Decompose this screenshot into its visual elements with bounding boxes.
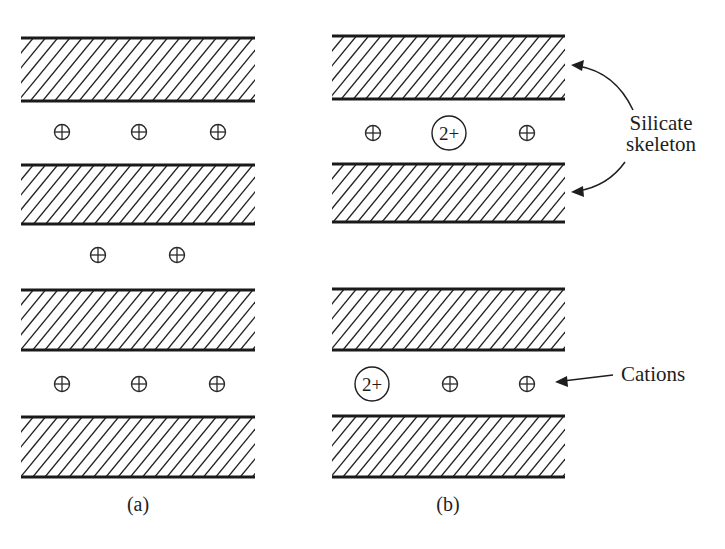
cation-icon [443, 377, 458, 392]
hatch-line [21, 290, 70, 350]
hatch-line [502, 289, 552, 350]
hatch-line [465, 289, 515, 350]
hatch-line [0, 38, 33, 101]
cation-icon [170, 248, 185, 263]
hatch-line [575, 416, 625, 477]
hatch-line [563, 416, 613, 477]
hatch-pattern [284, 164, 649, 222]
arrow-to-lower-layer [578, 162, 625, 191]
hatch-line [191, 290, 240, 350]
cation-icon [366, 126, 381, 141]
hatch-line [289, 417, 338, 477]
hatch-line [131, 165, 179, 224]
hatch-pattern [0, 290, 350, 350]
hatch-line [217, 165, 265, 224]
silicate-layer [0, 290, 350, 350]
hatch-line [550, 289, 600, 350]
panel-b: 2+2+ [280, 36, 661, 477]
hatch-line [265, 290, 314, 350]
hatch-line [563, 289, 613, 350]
hatch-line [550, 416, 600, 477]
silicate-layer [280, 36, 661, 99]
hatch-line [118, 290, 167, 350]
hatch-line [179, 290, 228, 350]
silicate-layer [0, 417, 350, 477]
hatch-line [8, 417, 57, 477]
hatch-line [106, 290, 155, 350]
hatch-line [143, 290, 192, 350]
hatch-line [192, 165, 240, 224]
hatch-line [394, 164, 442, 222]
cation-icon [132, 125, 147, 140]
hatch-line [204, 165, 252, 224]
hatch-line [282, 289, 332, 350]
hatch-line [58, 165, 106, 224]
hatch-line [404, 416, 454, 477]
hatch-line [143, 165, 191, 224]
hatch-line [262, 38, 314, 101]
hatch-line [0, 38, 21, 101]
hatch-line [319, 416, 369, 477]
hatch-line [282, 416, 332, 477]
hatch-line [106, 417, 155, 477]
cations-annotation: Cations [555, 362, 685, 387]
hatch-line [70, 165, 118, 224]
hatch-line [240, 417, 289, 477]
silicate-layer [282, 289, 661, 350]
hatch-line [289, 290, 338, 350]
hatch-line [216, 417, 265, 477]
hatch-line [380, 416, 430, 477]
hatch-line [284, 164, 332, 222]
arrow-head-icon [555, 376, 568, 387]
hatch-line [130, 417, 179, 477]
hatch-line [453, 416, 503, 477]
hatch-line [82, 290, 131, 350]
hatch-line [480, 164, 528, 222]
hatch-pattern [280, 36, 661, 99]
arrow-head-icon [571, 60, 584, 71]
panel-a [0, 38, 350, 477]
hatch-line [428, 416, 478, 477]
hatch-line [587, 289, 637, 350]
arrow-to-cation [563, 375, 613, 381]
hatch-line [306, 416, 356, 477]
hatch-line [575, 289, 625, 350]
hatch-line [156, 165, 204, 224]
hatch-line [299, 38, 351, 101]
hatch-line [204, 417, 253, 477]
hatch-line [168, 165, 216, 224]
arrow-to-upper-layer [578, 66, 633, 110]
hatch-line [0, 290, 21, 350]
hatch-line [441, 416, 491, 477]
hatch-line [45, 417, 94, 477]
hatch-line [309, 164, 357, 222]
hatch-line [130, 290, 179, 350]
hatch-line [514, 416, 564, 477]
hatch-line [598, 36, 650, 99]
hatch-line [367, 289, 417, 350]
cation-icon [91, 248, 106, 263]
hatch-line [587, 416, 637, 477]
cation-icon [55, 377, 70, 392]
hatch-line [538, 416, 588, 477]
hatch-line [253, 165, 301, 224]
silicate-layer [282, 416, 661, 477]
hatch-line [278, 165, 326, 224]
divalent-cation: 2+ [355, 367, 389, 401]
hatch-line [240, 290, 289, 350]
hatch-line [167, 290, 216, 350]
hatch-line [419, 164, 467, 222]
hatch-line [565, 164, 613, 222]
hatch-line [229, 165, 277, 224]
hatch-line [504, 164, 552, 222]
hatch-line [599, 416, 649, 477]
hatch-line [252, 417, 301, 477]
hatch-line [370, 164, 418, 222]
hatch-line [21, 417, 70, 477]
hatch-line [465, 416, 515, 477]
cation-icon [211, 125, 226, 140]
hatch-line [467, 164, 515, 222]
divalent-cation-label: 2+ [362, 374, 382, 395]
hatch-line [0, 417, 45, 477]
panel-label-a: (a) [127, 493, 149, 516]
